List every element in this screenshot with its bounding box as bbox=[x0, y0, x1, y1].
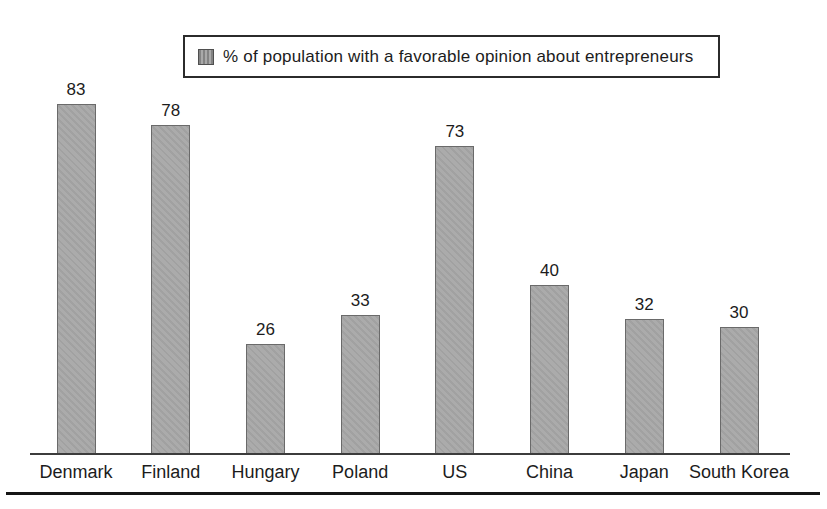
bar-value-label: 40 bbox=[505, 261, 595, 281]
bar-finland bbox=[151, 125, 190, 454]
bar-hungary bbox=[246, 344, 285, 454]
chart-legend: % of population with a favorable opinion… bbox=[183, 35, 720, 78]
bar-value-label: 33 bbox=[315, 291, 405, 311]
bar-value-label: 83 bbox=[31, 80, 121, 100]
bar-value-label: 73 bbox=[410, 122, 500, 142]
bar-china bbox=[530, 285, 569, 454]
category-label: South Korea bbox=[679, 462, 799, 483]
bottom-rule bbox=[6, 492, 820, 495]
bar-value-label: 26 bbox=[220, 320, 310, 340]
x-axis-line bbox=[30, 453, 790, 455]
bar-south-korea bbox=[720, 327, 759, 454]
bar-chart-figure: % of population with a favorable opinion… bbox=[0, 0, 827, 509]
bar-japan bbox=[625, 319, 664, 454]
bar-poland bbox=[341, 315, 380, 454]
bar-value-label: 32 bbox=[599, 295, 689, 315]
bar-denmark bbox=[57, 104, 96, 454]
legend-swatch-icon bbox=[198, 49, 214, 65]
bar-value-label: 30 bbox=[694, 303, 784, 323]
legend-label: % of population with a favorable opinion… bbox=[223, 47, 693, 67]
bar-us bbox=[435, 146, 474, 454]
bar-value-label: 78 bbox=[126, 101, 216, 121]
